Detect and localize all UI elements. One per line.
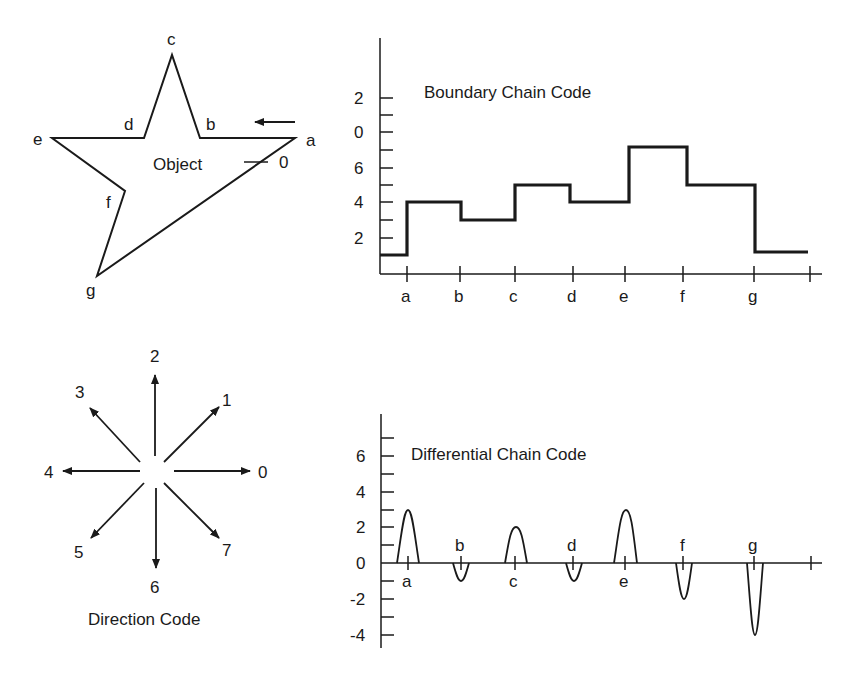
object-label: Object bbox=[153, 155, 202, 174]
direction-label-0: 0 bbox=[258, 463, 267, 482]
direction-label-6: 6 bbox=[150, 578, 159, 597]
x-tick-label-g: g bbox=[748, 287, 757, 306]
vertex-label-c: c bbox=[167, 30, 176, 49]
x-tick-label-d: d bbox=[567, 287, 576, 306]
pulse-g bbox=[747, 563, 763, 635]
direction-label-2: 2 bbox=[150, 347, 159, 366]
x-tick-label-c: c bbox=[509, 572, 518, 591]
direction-label-7: 7 bbox=[222, 541, 231, 560]
y-tick-label: 2 bbox=[356, 518, 365, 537]
direction-arrow-3 bbox=[90, 408, 140, 462]
x-tick-label-d: d bbox=[567, 536, 576, 555]
x-tick-label-a: a bbox=[402, 572, 412, 591]
chart-title: Differential Chain Code bbox=[411, 445, 586, 464]
direction-label-1: 1 bbox=[222, 391, 231, 410]
object-shape-panel: Object a b c d e f g 0 bbox=[33, 30, 316, 300]
differential-pulses bbox=[397, 510, 763, 635]
direction-label-4: 4 bbox=[44, 463, 53, 482]
direction-arrow-5 bbox=[91, 483, 144, 538]
differential-chain-code-chart: 6 4 2 0 -2 -4 a b c d e f g Differential… bbox=[350, 414, 822, 648]
y-tick-label: 4 bbox=[354, 193, 363, 212]
pulse-c bbox=[505, 527, 527, 563]
y-ticks bbox=[380, 98, 393, 238]
direction-label-5: 5 bbox=[74, 543, 83, 562]
vertex-label-g: g bbox=[86, 281, 95, 300]
vertex-label-e: e bbox=[33, 130, 42, 149]
figure-canvas: Object a b c d e f g 0 2 0 6 4 2 bbox=[0, 0, 860, 684]
x-tick-label-a: a bbox=[401, 287, 411, 306]
vertex-label-d: d bbox=[124, 115, 133, 134]
pulse-f bbox=[676, 563, 692, 599]
y-tick-label: 6 bbox=[354, 159, 363, 178]
x-tick-label-b: b bbox=[454, 287, 463, 306]
boundary-step-line bbox=[380, 147, 808, 255]
x-tick-label-c: c bbox=[509, 287, 518, 306]
start-marker-label: 0 bbox=[279, 153, 288, 172]
vertex-label-b: b bbox=[206, 115, 215, 134]
y-tick-label: 6 bbox=[356, 447, 365, 466]
y-tick-label: 4 bbox=[356, 483, 365, 502]
chart-title: Boundary Chain Code bbox=[424, 83, 591, 102]
x-tick-label-f: f bbox=[680, 287, 685, 306]
vertex-label-a: a bbox=[306, 131, 316, 150]
pulse-a bbox=[397, 510, 419, 563]
x-tick-label-e: e bbox=[619, 287, 628, 306]
direction-arrow-7 bbox=[164, 483, 219, 538]
y-ticks bbox=[381, 438, 394, 635]
x-tick-label-b: b bbox=[455, 536, 464, 555]
vertex-label-f: f bbox=[106, 193, 111, 212]
x-tick-label-g: g bbox=[748, 536, 757, 555]
direction-label-3: 3 bbox=[75, 383, 84, 402]
pulse-e bbox=[614, 510, 637, 563]
pulse-d bbox=[566, 563, 582, 581]
y-tick-label: 0 bbox=[354, 123, 363, 142]
y-tick-label: -2 bbox=[350, 590, 365, 609]
y-tick-label: 2 bbox=[354, 229, 363, 248]
y-tick-label: -4 bbox=[350, 626, 365, 645]
direction-code-title: Direction Code bbox=[88, 610, 200, 629]
boundary-chain-code-chart: 2 0 6 4 2 a b c d e f g Boundary Chain C… bbox=[354, 38, 822, 306]
direction-arrow-1 bbox=[164, 407, 219, 462]
y-tick-label: 0 bbox=[356, 554, 365, 573]
x-tick-label-f: f bbox=[680, 536, 685, 555]
x-tick-label-e: e bbox=[619, 572, 628, 591]
y-tick-label: 2 bbox=[354, 89, 363, 108]
